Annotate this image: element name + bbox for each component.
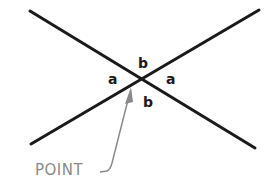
callout-arrow [100,96,129,172]
point-callout-label: POINT [35,163,83,178]
diagram-canvas: b a a b POINT [0,0,268,190]
angle-label-bottom: b [143,95,153,109]
angle-label-top: b [138,56,148,70]
angle-label-left: a [108,72,117,86]
angle-label-right: a [166,72,175,86]
line-ascending [31,10,259,144]
